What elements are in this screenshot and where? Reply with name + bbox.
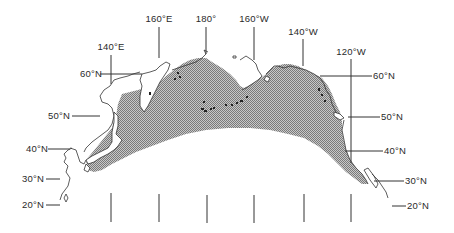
label-40n-right: 40°N (384, 145, 406, 156)
taiwan-island (64, 194, 68, 202)
label-30n-left: 30°N (22, 173, 44, 184)
label-120w: 120°W (336, 46, 366, 57)
label-60n-left: 60°N (80, 68, 102, 79)
alaska-island (233, 56, 236, 58)
label-50n-left: 50°N (48, 110, 70, 121)
label-50n-right: 50°N (381, 111, 403, 122)
label-140e: 140°E (98, 41, 125, 52)
label-60n-right: 60°N (373, 70, 395, 81)
label-140w: 140°W (288, 26, 318, 37)
distribution-range-shading (86, 58, 368, 184)
label-160w: 160°W (239, 13, 269, 24)
label-160e: 160°E (146, 13, 173, 24)
korea-coastline (70, 148, 86, 164)
label-20n-left: 20°N (22, 199, 44, 210)
distribution-map: 140°E 160°E 180° 160°W 140°W 120°W 60°N … (0, 0, 454, 233)
label-180: 180° (196, 13, 216, 24)
label-30n-right: 30°N (405, 175, 427, 186)
bottom-meridian-ticks (111, 193, 351, 223)
label-20n-right: 20°N (407, 200, 429, 211)
label-40n-left: 40°N (26, 143, 48, 154)
